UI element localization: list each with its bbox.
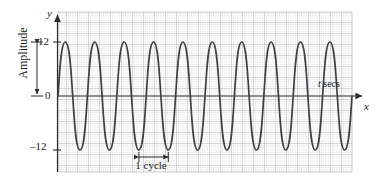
ytick-label-0: 0 — [45, 90, 51, 101]
sinusoid-plot — [0, 0, 380, 178]
x-axis-label: x — [364, 101, 369, 112]
t-secs-label: t secs — [318, 79, 340, 89]
cycle-label: 1 cycle — [123, 160, 179, 171]
t-variable: t — [318, 78, 321, 89]
amplitude-label: Amplitude — [17, 17, 29, 89]
ytick-label-12: 12 — [38, 36, 49, 47]
t-units: secs — [323, 78, 340, 89]
y-axis-label: y — [47, 8, 52, 19]
amplitude-arrow — [31, 42, 43, 96]
ytick-label-neg12: –12 — [30, 141, 47, 152]
chart-figure: y x t secs 12 0 –12 Amplitude 1 cycle — [0, 0, 380, 178]
